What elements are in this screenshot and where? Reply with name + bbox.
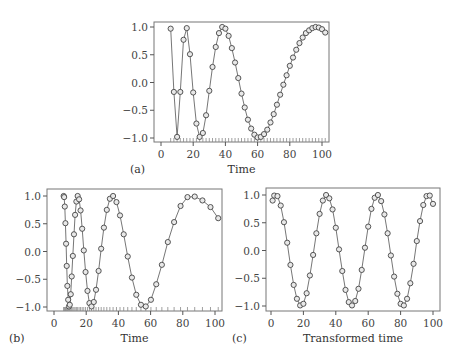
data-point-marker	[327, 196, 332, 201]
x-tick-label: 40	[112, 317, 125, 329]
data-point-marker	[275, 194, 280, 199]
data-point-marker	[213, 44, 218, 49]
x-axis-title: Time	[121, 332, 149, 345]
plot-area	[270, 192, 436, 308]
data-point-marker	[291, 282, 296, 287]
data-point-marker	[171, 89, 176, 94]
data-point-marker	[62, 204, 67, 209]
data-point-marker	[232, 60, 237, 65]
x-tick-label: 100	[423, 317, 443, 329]
data-point-marker	[427, 193, 432, 198]
plot-area	[168, 24, 328, 142]
y-tick-label: 0.0	[24, 246, 41, 258]
data-point-marker	[311, 252, 316, 257]
y-tick-label: 1.0	[243, 189, 260, 201]
data-point-marker	[323, 30, 328, 35]
data-point-marker	[63, 221, 68, 226]
data-point-marker	[421, 202, 426, 207]
data-point-marker	[385, 231, 390, 236]
y-tick-label: 0.5	[243, 217, 260, 229]
data-point-marker	[411, 261, 416, 266]
data-point-marker	[154, 282, 159, 287]
data-point-marker	[430, 201, 435, 206]
data-point-marker	[134, 292, 139, 297]
data-point-marker	[80, 226, 85, 231]
data-point-marker	[71, 232, 76, 237]
data-point-marker	[417, 218, 422, 223]
data-point-marker	[414, 238, 419, 243]
x-tick-label: 80	[283, 148, 296, 160]
data-point-marker	[216, 216, 221, 221]
x-tick-label: 20	[80, 317, 93, 329]
x-tick-label: 20	[297, 317, 310, 329]
data-point-marker	[340, 268, 345, 273]
x-tick-label: 0	[268, 317, 275, 329]
y-tick-label: 0.0	[243, 245, 260, 257]
y-tick-label: 1.0	[131, 21, 148, 33]
data-point-marker	[172, 219, 177, 224]
data-point-marker	[294, 296, 299, 301]
data-point-marker	[404, 296, 409, 301]
x-tick-label: 60	[251, 148, 264, 160]
data-point-marker	[216, 31, 221, 36]
data-point-marker	[362, 245, 367, 250]
plot-frame	[266, 188, 440, 311]
data-point-marker	[159, 262, 164, 267]
x-tick-label: 100	[312, 148, 332, 160]
data-point-marker	[236, 75, 241, 80]
data-point-marker	[382, 212, 387, 217]
data-point-marker	[388, 253, 393, 258]
data-point-marker	[333, 225, 338, 230]
data-point-marker	[77, 197, 82, 202]
data-point-marker	[330, 207, 335, 212]
x-tick-label: 20	[187, 148, 200, 160]
data-point-marker	[369, 206, 374, 211]
y-tick-label: −1.0	[123, 132, 149, 144]
data-point-marker	[285, 240, 290, 245]
y-tick-label: 1.0	[24, 190, 41, 202]
data-point-marker	[143, 304, 148, 309]
data-point-marker	[181, 37, 186, 42]
panel-c-transformed-time-series: −1.0−0.50.00.51.0020406080100Transformed…	[232, 188, 443, 345]
data-point-marker	[125, 254, 130, 259]
data-point-marker	[72, 212, 77, 217]
data-point-marker	[343, 287, 348, 292]
data-point-marker	[121, 232, 126, 237]
data-point-marker	[359, 267, 364, 272]
data-point-marker	[294, 47, 299, 52]
data-point-marker	[200, 198, 205, 203]
data-point-marker	[178, 89, 183, 94]
data-point-marker	[203, 113, 208, 118]
data-point-marker	[104, 207, 109, 212]
data-point-marker	[191, 90, 196, 95]
data-point-marker	[63, 241, 68, 246]
data-point-marker	[165, 239, 170, 244]
data-point-marker	[67, 302, 72, 307]
data-point-marker	[353, 298, 358, 303]
data-point-marker	[175, 134, 180, 139]
data-point-marker	[185, 195, 190, 200]
data-point-marker	[194, 121, 199, 126]
series-line	[273, 195, 433, 305]
data-point-marker	[114, 200, 119, 205]
data-point-marker	[117, 213, 122, 218]
data-point-marker	[192, 194, 197, 199]
data-point-marker	[178, 203, 183, 208]
data-point-marker	[281, 82, 286, 87]
data-point-marker	[110, 193, 115, 198]
y-tick-label: 0.5	[24, 218, 41, 230]
data-point-marker	[268, 120, 273, 125]
data-point-marker	[66, 297, 71, 302]
figure: −1.0−0.50.00.51.0020406080100Time(a) −1.…	[0, 0, 460, 358]
x-tick-label: 40	[219, 148, 232, 160]
y-tick-label: 0.0	[131, 77, 148, 89]
data-point-marker	[62, 195, 67, 200]
data-point-marker	[83, 269, 88, 274]
data-point-marker	[366, 224, 371, 229]
data-point-marker	[287, 63, 292, 68]
data-point-marker	[270, 198, 275, 203]
data-point-marker	[148, 297, 153, 302]
data-point-marker	[69, 274, 74, 279]
data-point-marker	[229, 45, 234, 50]
data-point-marker	[284, 73, 289, 78]
